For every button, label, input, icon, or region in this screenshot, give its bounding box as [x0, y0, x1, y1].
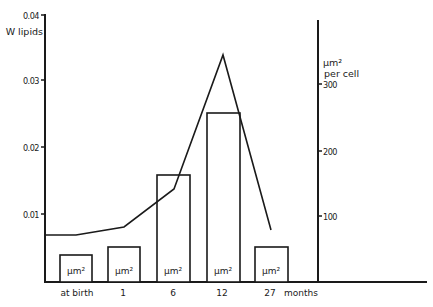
right-tick-label: 200	[323, 147, 337, 157]
x-axis-labels: at birth 1 6 12 27 months	[60, 288, 318, 298]
bar-27-months	[255, 247, 288, 282]
bar-series: µm² µm² µm² µm² µm²	[60, 113, 288, 282]
category-label: at birth	[60, 288, 93, 298]
right-tick-label: 300	[323, 80, 337, 90]
left-tick-label: 0.01	[23, 210, 39, 220]
left-axis-title: W lipids	[6, 26, 43, 37]
right-axis-title-per-cell: per cell	[324, 68, 359, 79]
bar-unit-label: µm²	[262, 266, 280, 276]
x-axis-title: months	[284, 288, 318, 298]
bar-unit-label: µm²	[164, 266, 182, 276]
category-label: 1	[120, 288, 126, 298]
right-tick-label: 100	[323, 212, 337, 222]
category-label: 12	[216, 288, 227, 298]
left-tick-label: 0.04	[23, 11, 39, 21]
bar-12-months	[207, 113, 240, 282]
bar-unit-label: µm²	[67, 266, 85, 276]
left-tick-label: 0.02	[23, 143, 39, 153]
category-label: 27	[264, 288, 275, 298]
left-axis-ticks: 0.01 0.02 0.03 0.04	[23, 11, 45, 220]
right-axis-ticks: 100 200 300	[318, 80, 337, 222]
left-tick-label: 0.03	[23, 76, 39, 86]
chart: 0.01 0.02 0.03 0.04 W lipids 100 200 300…	[0, 0, 433, 307]
right-axis-title-unit: µm²	[323, 57, 342, 68]
bar-unit-label: µm²	[115, 266, 133, 276]
bar-unit-label: µm²	[214, 266, 232, 276]
category-label: 6	[170, 288, 176, 298]
bar-1-month	[108, 247, 140, 282]
